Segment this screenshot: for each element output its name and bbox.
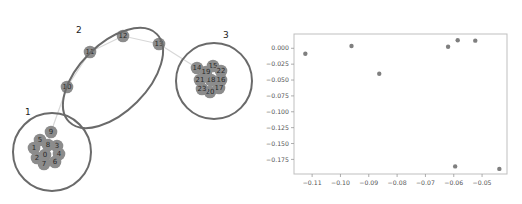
- cluster-label: 3: [223, 30, 229, 40]
- network-cluster-diagram: 01234567891011121314151617181920212223 1…: [0, 0, 262, 204]
- node-label: 9: [49, 128, 53, 136]
- graph-node: 8: [42, 139, 55, 152]
- graph-node: 9: [45, 126, 58, 139]
- cluster-label: 2: [76, 25, 82, 35]
- y-tick-label: −0.100: [266, 108, 289, 115]
- graph-node: 6: [49, 156, 62, 169]
- cluster-ring: [13, 113, 91, 191]
- y-tick-label: −0.050: [266, 76, 289, 83]
- data-point: [473, 38, 477, 42]
- scatter-plot: 0.000−0.025−0.050−0.075−0.100−0.125−0.15…: [262, 0, 522, 204]
- x-axis-ticks: −0.11−0.10−0.09−0.08−0.07−0.06−0.05: [303, 174, 492, 186]
- y-tick-label: −0.175: [266, 156, 289, 163]
- node-label: 23: [198, 85, 207, 93]
- x-tick-label: −0.11: [303, 179, 322, 186]
- x-tick-label: −0.06: [444, 179, 463, 186]
- data-point: [349, 44, 353, 48]
- data-point: [453, 164, 457, 168]
- node-label: 7: [42, 160, 46, 168]
- data-point: [446, 44, 450, 48]
- graph-node: 23: [196, 83, 209, 96]
- y-tick-label: −0.075: [266, 92, 289, 99]
- x-tick-label: −0.05: [473, 179, 492, 186]
- plot-area-frame: [294, 34, 507, 174]
- y-tick-label: −0.025: [266, 60, 289, 67]
- x-tick-label: −0.07: [416, 179, 435, 186]
- x-tick-label: −0.08: [388, 179, 407, 186]
- data-point: [456, 38, 460, 42]
- data-point: [303, 51, 307, 55]
- node-label: 8: [46, 141, 50, 149]
- graph-nodes: 01234567891011121314151617181920212223: [28, 30, 228, 171]
- node-label: 22: [217, 67, 226, 75]
- graph-edges: [45, 36, 197, 155]
- cluster-ring: [45, 10, 181, 146]
- cluster-label: 1: [25, 107, 31, 117]
- node-label: 6: [53, 158, 58, 166]
- y-tick-label: −0.125: [266, 124, 289, 131]
- graph-node: 7: [38, 158, 51, 171]
- x-tick-label: −0.09: [359, 179, 378, 186]
- node-label: 1: [32, 144, 36, 152]
- node-label: 21: [196, 76, 205, 84]
- data-point: [497, 167, 501, 171]
- data-point: [377, 71, 381, 75]
- x-tick-label: −0.10: [331, 179, 350, 186]
- y-tick-label: 0.000: [271, 44, 289, 51]
- y-tick-label: −0.150: [266, 140, 289, 147]
- scatter-points: [303, 38, 501, 171]
- node-label: 5: [38, 136, 42, 144]
- y-axis-ticks: 0.000−0.025−0.050−0.075−0.100−0.125−0.15…: [266, 44, 294, 162]
- graph-edge: [159, 44, 197, 68]
- graph-node: 22: [215, 65, 228, 78]
- node-label: 2: [35, 154, 39, 162]
